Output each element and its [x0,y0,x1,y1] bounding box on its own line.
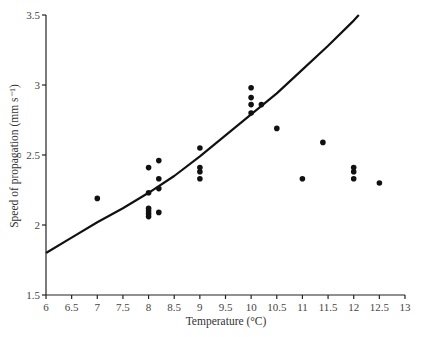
data-point [156,158,162,164]
y-axis-ticks: 1.522.533.5 [26,9,46,301]
data-point [197,169,203,175]
data-point [146,165,152,171]
data-point [156,186,162,192]
x-tick-label: 10.5 [267,301,287,313]
y-tick-label: 2 [35,219,41,231]
data-point [248,85,254,91]
x-tick-label: 7.5 [116,301,130,313]
y-tick-label: 3 [35,79,41,91]
data-point [156,176,162,182]
plot-area [46,15,382,253]
data-point [259,102,265,108]
scatter-chart: 1.522.533.5 66.577.588.599.51010.51111.5… [0,0,424,337]
fitted-curve-line [46,15,359,253]
data-point [197,145,203,151]
x-tick-label: 6.5 [65,301,79,313]
data-point [197,176,203,182]
data-point [377,180,383,186]
x-tick-label: 12.5 [370,301,390,313]
data-point [351,169,357,175]
x-tick-label: 7 [95,301,101,313]
data-point [248,95,254,101]
x-tick-label: 11.5 [319,301,338,313]
x-tick-label: 9 [197,301,203,313]
data-point [95,196,101,202]
data-point [146,190,152,196]
x-tick-label: 12 [348,301,359,313]
data-point [146,214,152,220]
x-tick-label: 13 [400,301,412,313]
y-tick-label: 1.5 [26,289,40,301]
y-tick-label: 3.5 [26,9,40,21]
data-point [274,126,280,132]
y-tick-label: 2.5 [26,149,40,161]
data-point [351,176,357,182]
x-tick-label: 11 [297,301,308,313]
data-point [156,210,162,216]
x-axis-title: Temperature (°C) [186,315,267,328]
x-tick-label: 8.5 [167,301,181,313]
x-tick-label: 8 [146,301,152,313]
x-axis-ticks: 66.577.588.599.51010.51111.51212.513 [43,295,411,313]
data-point [320,140,326,146]
x-tick-label: 10 [246,301,258,313]
y-axis-title: Speed of propagation (mm s⁻¹) [8,84,21,228]
x-tick-label: 9.5 [219,301,233,313]
data-point [300,176,306,182]
data-point [248,110,254,116]
data-point [248,102,254,108]
x-tick-label: 6 [43,301,49,313]
